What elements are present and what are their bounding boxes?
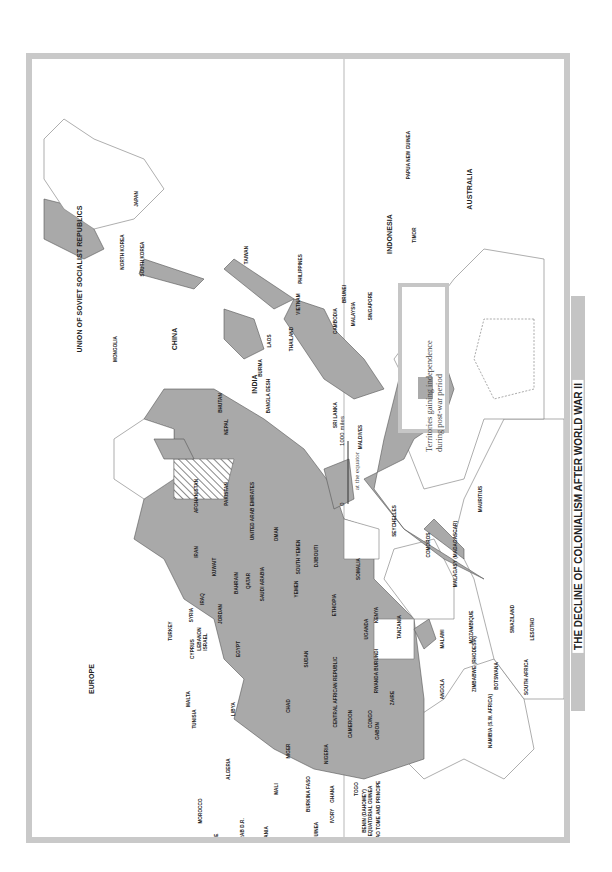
label-india: INDIA [251,374,258,394]
label-north-korea: NORTH KOREA [120,234,125,270]
map-canvas: UNION OF SOVIET SOCIALIST REPUBLICS CHIN… [32,59,564,837]
map-title: THE DECLINE OF COLONIALISM AFTER WORLD W… [573,380,584,653]
world-map: UNION OF SOVIET SOCIALIST REPUBLICS CHIN… [32,59,564,837]
label-cyprus: CYPRUS [190,639,195,659]
java-island [139,259,204,289]
label-seychelles: SEYCHELLES [392,505,397,537]
label-yemen: YEMEN [294,580,299,597]
label-malta: MALTA [186,690,191,706]
label-lesotho: LESOTHO [530,617,535,640]
label-ghana: GHANA [330,785,335,803]
label-turkey: TURKEY [168,621,173,641]
legend-line-1: Territories gaining independence [424,340,434,452]
label-benin: BENIN (DAHOMEY) [362,789,367,833]
label-indonesia: INDONESIA [386,214,393,254]
label-angola: ANGOLA [440,678,445,699]
label-iran: IRAN [194,546,199,558]
label-swaziland: SWAZILAND [510,604,515,633]
ethiopia-landmass [344,519,379,559]
label-sahrawi: SAHARAWI ARAB D.R. [240,818,245,837]
label-tanzania: TANZANIA [397,614,402,639]
label-botswana: BOTSWANA [494,662,499,690]
label-namibia: NAMIBIA (S.W. AFRICA) [488,694,493,748]
caption: THE DECLINE OF COLONIALISM AFTER WORLD W… [571,296,585,711]
label-eq-guinea: EQUATORIAL GUINEA [368,785,373,836]
label-malawi: MALAWI [440,629,445,648]
label-gabon: GABON [375,722,380,740]
scale-note: at the equator [353,451,361,490]
label-niger: NIGER [286,743,291,759]
label-mauritius: MAURITIUS [478,486,483,512]
label-timor: TIMOR [412,227,417,243]
label-south-yemen: SOUTH YEMEN [296,539,301,574]
label-ussr: UNION OF SOVIET SOCIALIST REPUBLICS [76,205,83,352]
borneo-island [224,309,264,359]
label-taiwan: TAIWAN [244,245,249,264]
label-bhutan: BHUTAN [218,393,223,413]
label-maldives: MALDIVES [358,425,363,450]
map-frame: UNION OF SOVIET SOCIALIST REPUBLICS CHIN… [26,53,570,843]
label-uae: UNITED ARAB EMIRATES [250,482,255,540]
scale-distance: 1000 miles [339,416,345,446]
sumatra-island [224,259,294,309]
label-syria: SYRIA [189,607,194,622]
label-pakistan: PAKISTAN [224,482,229,506]
label-congo: CONGO [368,710,373,728]
label-south-korea: SOUTH KOREA [140,241,145,277]
label-singapore: SINGAPORE [368,292,373,320]
label-sudan: SUDAN [304,650,309,667]
label-somalia: SOMALIA [356,557,361,579]
label-guinea: GUINEA [314,821,319,837]
label-philippines: PHILIPPINES [298,254,303,284]
label-iraq: IRAQ [200,593,205,605]
label-car: CENTRAL AFRICAN REPUBLIC [333,656,338,727]
label-vietnam: VIETNAM [296,293,301,314]
label-burma: BURMA [258,359,263,377]
label-togo: TOGO [354,782,359,796]
label-zimbabwe: ZIMBABWE (RHODESIA) [472,636,477,692]
label-kuwait: KUWAIT [212,558,217,577]
label-japan: JAPAN [134,191,139,207]
label-nigeria: NIGERIA [324,743,329,763]
label-tunisia: TUNISIA [192,709,197,729]
ussr-landmass [454,419,564,699]
label-rwanda: RWANDA BURUNDI [374,649,379,693]
label-lebanon-israel: LEBANON [197,627,202,651]
legend-line-2: during post-war period [434,374,444,452]
label-morocco: MOROCCO [198,798,203,824]
label-chad: CHAD [286,699,291,713]
label-ethiopia: ETHIOPIA [332,593,337,616]
label-djibouti: DJIBOUTI [314,545,319,567]
label-zaire: ZAIRE [390,691,395,705]
label-bahrain-qatar: BAHRAIN [234,571,239,593]
label-laos: LAOS [267,334,272,347]
label-egypt: EGYPT [236,641,241,657]
label-qatar: QATAR [246,572,251,589]
label-papua: PAPUA NEW GUINEA [406,130,411,179]
label-mongolia: MONGOLIA [113,335,118,362]
label-mauritania: MAURITANIA [264,826,269,837]
label-kenya: KENYA [374,606,379,623]
label-bangladesh: BANGLA DESH [266,378,271,413]
label-cape-verde: CAPE VERDE [214,834,219,837]
label-brunei: BRUNEI [342,285,347,303]
label-oman: OMAN [274,526,279,541]
label-sao-tome: SAO TOME AND PRINCIPE [376,781,381,837]
label-libya: LIBYA [231,701,236,715]
label-algeria: ALGERIA [226,758,231,780]
label-thailand: THAILAND [289,326,294,351]
label-malaysia: MALAYSIA [351,301,356,326]
label-south-africa: SOUTH AFRICA [524,659,529,695]
map-legend: Territories gaining independence during … [398,283,449,433]
label-mali: MALI [274,783,279,795]
label-saudi-arabia: SAUDI ARABIA [260,566,265,601]
label-china: CHINA [171,328,178,351]
label-uganda: UGANDA [364,618,369,639]
label-sri-lanka: SRI LANKA [333,401,338,427]
label-nepal: NEPAL [224,419,229,435]
label-cameroon: CAMEROON [348,709,353,738]
label-cambodia: CAMBODIA [333,307,338,334]
label-afghanistan: AFGHANISTAN [194,478,199,513]
label-ivory: IVORY [330,809,335,824]
label-europe: EUROPE [88,664,95,694]
